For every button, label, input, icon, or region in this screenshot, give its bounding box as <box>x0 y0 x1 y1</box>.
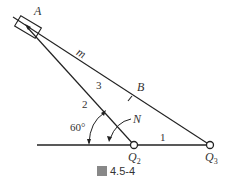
label-N: N <box>132 112 142 126</box>
angle-arc-60 <box>89 113 104 143</box>
label-Q2-main: Q <box>128 150 137 164</box>
label-B: B <box>137 80 145 94</box>
caption-number: 4.5-4 <box>110 165 135 177</box>
label-link-1: 1 <box>160 131 166 143</box>
N-arrowhead <box>107 136 112 142</box>
caption-figure-icon <box>97 166 107 176</box>
guide-rod-m <box>13 17 210 145</box>
angle-arrow-bottom <box>87 139 91 145</box>
label-angle: 60° <box>70 121 85 133</box>
label-Q2: Q2 <box>128 150 141 166</box>
pivot-Q3 <box>207 142 214 149</box>
arrow-at-A <box>25 24 31 30</box>
label-Q2-sub: 2 <box>137 157 141 166</box>
label-A: A <box>33 4 42 18</box>
label-Q3-main: Q <box>205 150 214 164</box>
label-link-3: 3 <box>96 79 102 91</box>
label-Q3-sub: 3 <box>214 157 218 166</box>
label-m: m <box>74 45 89 62</box>
mechanism-diagram: A m 3 B 2 N 60° 1 Q2 Q3 4.5-4 <box>0 0 235 188</box>
label-Q3: Q3 <box>205 150 218 166</box>
label-link-2: 2 <box>82 98 88 110</box>
tick-B <box>128 96 132 101</box>
pivot-Q2 <box>131 142 138 149</box>
